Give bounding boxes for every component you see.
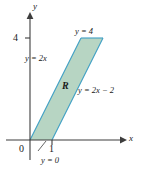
label-boundary-right: y = 2x − 2 [78, 86, 114, 95]
region-label-r: R [62, 81, 69, 91]
label-boundary-bottom: y = 0 [41, 156, 59, 165]
y-axis-arrowhead [27, 12, 34, 19]
leader-line-y-equals-0 [38, 141, 46, 151]
origin-label: 0 [19, 144, 24, 154]
x-axis-label: x [129, 134, 133, 143]
x-tick-label-1: 1 [49, 144, 54, 154]
y-tick-label-4: 4 [13, 33, 18, 43]
x-axis-arrowhead [120, 137, 127, 144]
y-axis-label: y [33, 2, 37, 11]
label-boundary-top: y = 4 [75, 27, 93, 36]
figure-region-r: y x 4 1 0 y = 2x y = 2x − 2 y = 4 y = 0 … [0, 0, 143, 177]
label-boundary-left: y = 2x [25, 54, 47, 63]
